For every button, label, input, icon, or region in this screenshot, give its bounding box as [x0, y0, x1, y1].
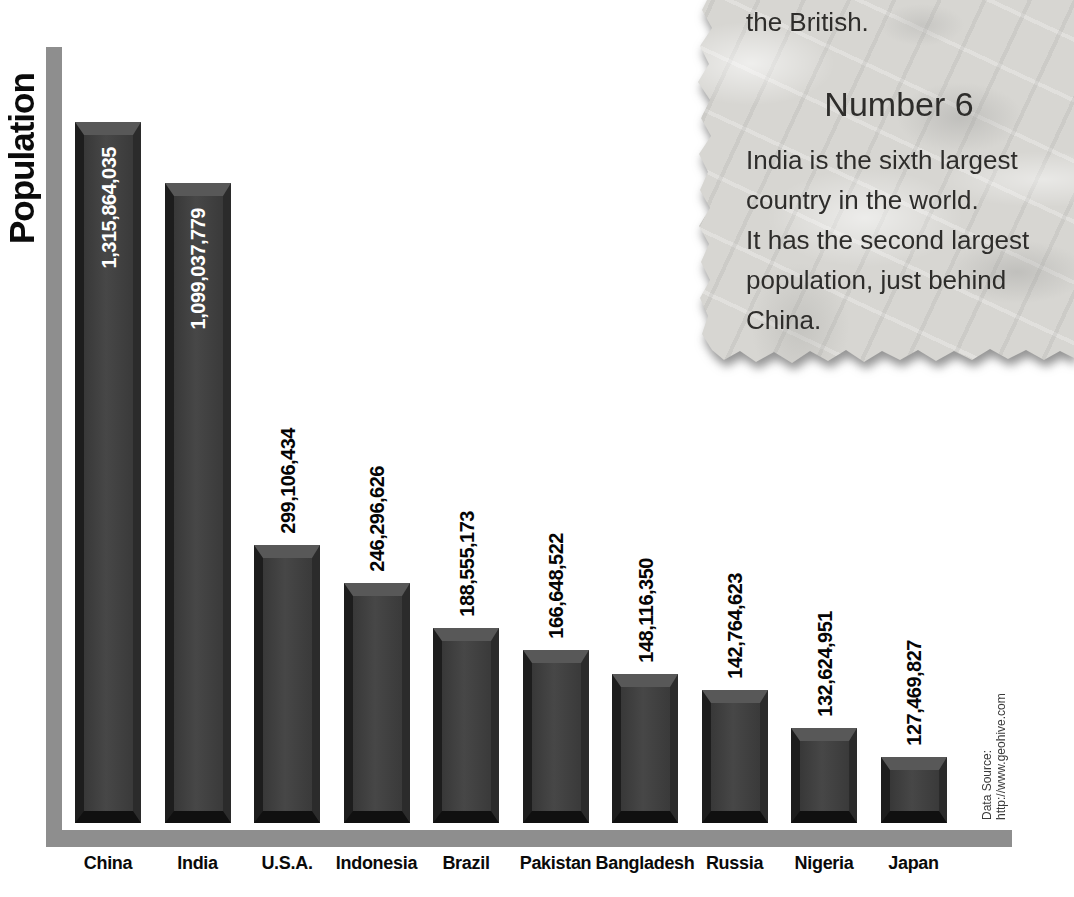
note-fragment-text: the British. [746, 2, 1052, 42]
y-axis-line [46, 47, 62, 847]
bar-russia: 142,764,623 [702, 690, 768, 823]
bar-china: 1,315,864,035 [75, 122, 141, 823]
x-label-usa: U.S.A. [261, 853, 312, 874]
bar-nigeria: 132,624,951 [791, 728, 857, 823]
data-source-note: Data Source: http://www.geohive.com [980, 690, 1008, 820]
x-label-india: India [177, 853, 218, 874]
bar-value-label-pakistan: 166,648,522 [545, 533, 568, 639]
bar-value-label-nigeria: 132,624,951 [813, 611, 836, 717]
x-label-russia: Russia [706, 853, 763, 874]
x-label-china: China [84, 853, 133, 874]
bar-japan: 127,469,827 [881, 757, 947, 823]
bar-value-label-china: 1,315,864,035 [97, 147, 120, 268]
note-heading: Number 6 [746, 82, 1052, 126]
bar-value-label-usa: 299,106,434 [276, 428, 299, 534]
x-label-japan: Japan [888, 853, 939, 874]
x-label-indonesia: Indonesia [336, 853, 417, 874]
x-label-brazil: Brazil [442, 853, 489, 874]
x-label-pakistan: Pakistan [520, 853, 592, 874]
note-paper-texture: the British. Number 6 India is the sixth… [694, 0, 1074, 380]
x-axis-line [46, 830, 1012, 847]
bar-usa: 299,106,434 [254, 545, 320, 823]
note-body-text: India is the sixth largest country in th… [746, 140, 1052, 340]
page-root: { "chart_data": { "type": "bar", "title"… [0, 0, 1074, 897]
bar-brazil: 188,555,173 [433, 628, 499, 823]
bar-value-label-bangladesh: 148,116,350 [634, 558, 657, 663]
bar-value-label-brazil: 188,555,173 [455, 511, 478, 617]
note-card: the British. Number 6 India is the sixth… [694, 0, 1074, 380]
bar-value-label-india: 1,099,037,779 [187, 208, 210, 329]
bar-value-label-russia: 142,764,623 [724, 573, 747, 679]
bar-value-label-indonesia: 246,296,626 [366, 466, 389, 572]
bar-india: 1,099,037,779 [165, 183, 231, 823]
x-label-bangladesh: Bangladesh [595, 853, 694, 874]
bar-pakistan: 166,648,522 [523, 650, 589, 823]
y-axis-label: Population [2, 44, 42, 244]
bar-bangladesh: 148,116,350 [612, 674, 678, 823]
bar-value-label-japan: 127,469,827 [903, 640, 926, 746]
x-label-nigeria: Nigeria [795, 853, 854, 874]
bar-indonesia: 246,296,626 [344, 583, 410, 823]
